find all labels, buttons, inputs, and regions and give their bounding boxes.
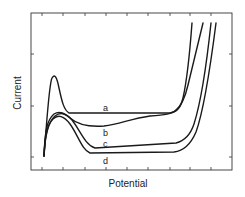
voltammogram-chart: a b c d Potential Current — [0, 0, 245, 197]
curve-c — [44, 23, 211, 156]
curve-c-label: c — [103, 139, 108, 149]
curve-b — [44, 23, 203, 156]
x-axis-title: Potential — [109, 178, 148, 189]
y-axis-ticks — [31, 54, 232, 157]
curve-b-label: b — [103, 128, 108, 138]
curve-d-label: d — [103, 156, 108, 166]
curve-a-label: a — [103, 103, 108, 113]
curve-a — [44, 23, 192, 156]
y-axis-title: Current — [12, 76, 23, 110]
